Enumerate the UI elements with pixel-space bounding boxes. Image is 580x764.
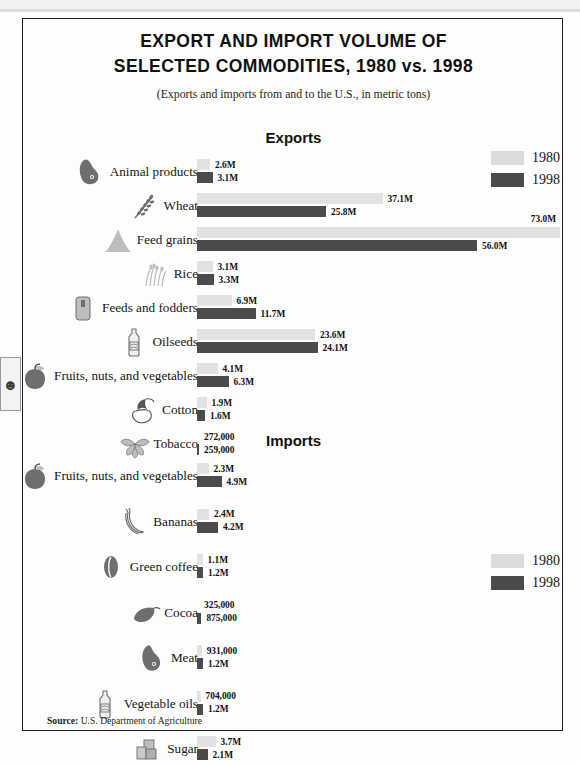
chart-frame: EXPORT AND IMPORT VOLUME OF SELECTED COM… [22, 18, 563, 731]
row-bars: 325,000875,000 [197, 596, 564, 630]
bar-1998 [197, 567, 203, 578]
bar-group-1998: 24.1M [197, 342, 348, 353]
row-label-sugar: Sugar [167, 741, 198, 757]
bar-1980 [197, 509, 209, 520]
row-bars: 4.1M6.3M [197, 359, 564, 393]
oilseeds-icon [117, 327, 151, 357]
bar-value-label: 931,000 [207, 646, 237, 656]
bar-group-1980: 6.9M [197, 295, 257, 306]
bar-value-label: 1.1M [208, 555, 229, 565]
chart-row: Sugar 3.7M2.1M [23, 732, 564, 764]
row-bars: 1.9M1.6M [197, 393, 564, 427]
bananas-icon [117, 507, 151, 537]
wheat-icon [128, 191, 162, 221]
bar-1980 [197, 691, 201, 702]
row-bars: 3.7M2.1M [197, 732, 564, 764]
bar-value-label: 1.2M [208, 704, 229, 714]
bar-value-label: 6.3M [234, 377, 255, 387]
bar-1980 [197, 295, 232, 306]
bar-1980 [197, 193, 383, 204]
row-bars: 73.0M56.0M [197, 223, 564, 257]
bar-1998 [197, 274, 214, 285]
row-bars: 23.6M24.1M [197, 325, 564, 359]
bar-value-label: 3.7M [221, 737, 242, 747]
row-label-animal-products: Animal products [110, 164, 198, 180]
bar-group-1998: 3.3M [197, 274, 239, 285]
bar-value-label: 875,000 [206, 613, 236, 623]
bar-group-1998: 4.9M [197, 476, 247, 487]
bar-value-label: 1.2M [208, 659, 229, 669]
bar-1998 [197, 308, 256, 319]
bar-1998 [197, 342, 318, 353]
bar-1980 [197, 329, 315, 340]
bar-group-1980: 4.1M [197, 363, 243, 374]
bar-group-1980: 704,000 [197, 691, 236, 702]
row-bars: 931,0001.2M [197, 641, 564, 675]
bar-group-1998: 11.7M [197, 308, 285, 319]
row-label-meat: Meat [171, 650, 198, 666]
bar-1980 [197, 363, 218, 374]
bar-1980 [197, 736, 216, 747]
bar-group-1980: 2.6M [197, 159, 236, 170]
chart-row: Bananas 2.4M4.2M [23, 505, 564, 539]
bar-1980 [197, 554, 203, 565]
row-label-wheat: Wheat [164, 198, 198, 214]
chart-row: Oilseeds23.6M24.1M [23, 325, 564, 359]
bar-value-label: 37.1M [388, 194, 413, 204]
bar-group-1980: 73.0M [197, 227, 560, 238]
bar-value-label: 2.6M [215, 160, 236, 170]
page-subtitle: (Exports and imports from and to the U.S… [23, 87, 564, 102]
bar-value-label: 2.1M [213, 750, 234, 760]
animal-products-icon [74, 157, 108, 187]
section-heading-imports: Imports [23, 432, 564, 449]
bar-group-1998: 25.8M [197, 206, 356, 217]
bar-1998 [197, 704, 203, 715]
fruits-nuts-vegetables-icon [18, 361, 52, 391]
bar-value-label: 4.2M [223, 522, 244, 532]
bar-value-label: 24.1M [323, 343, 348, 353]
bar-group-1998: 1.2M [197, 567, 229, 578]
page-title-line1: EXPORT AND IMPORT VOLUME OF [23, 31, 564, 52]
bar-group-1980: 1.1M [197, 554, 228, 565]
row-bars: 2.6M3.1M [197, 155, 564, 189]
bar-1998 [197, 410, 205, 421]
row-bars: 37.1M25.8M [197, 189, 564, 223]
vegetable-oils-icon [88, 689, 122, 719]
bar-group-1980: 931,000 [197, 645, 237, 656]
bar-group-1998: 1.2M [197, 658, 229, 669]
meat-icon [135, 643, 169, 673]
bar-group-1998: 4.2M [197, 522, 244, 533]
scan-edge-top [0, 0, 580, 9]
bar-1980 [197, 463, 209, 474]
row-label-feeds-and-fodders: Feeds and fodders [102, 300, 198, 316]
bar-1998 [197, 240, 477, 251]
bar-value-label: 23.6M [320, 330, 345, 340]
feeds-and-fodders-icon [66, 293, 100, 323]
row-bars: 6.9M11.7M [197, 291, 564, 325]
bar-group-1998: 1.6M [197, 410, 231, 421]
bar-value-label: 325,000 [204, 600, 234, 610]
bar-1998 [197, 172, 213, 183]
bar-1980 [197, 600, 199, 611]
bar-group-1980: 2.4M [197, 509, 235, 520]
bar-group-1998: 2.1M [197, 749, 233, 760]
chart-row: Green coffee1.1M1.2M [23, 550, 564, 584]
bar-value-label: 1.2M [208, 568, 229, 578]
bar-value-label: 3.3M [219, 275, 240, 285]
bar-1998 [197, 522, 218, 533]
bar-group-1980: 325,000 [197, 600, 234, 611]
bar-1980 [197, 159, 210, 170]
bar-value-label: 704,000 [206, 691, 236, 701]
row-label-vegetable-oils: Vegetable oils [124, 696, 198, 712]
row-label-cotton: Cotton [162, 402, 198, 418]
row-label-bananas: Bananas [153, 514, 198, 530]
bar-group-1980: 2.3M [197, 463, 234, 474]
bar-1980 [197, 227, 560, 238]
row-label-oilseeds: Oilseeds [153, 334, 198, 350]
bar-value-label: 73.0M [531, 214, 556, 224]
row-bars: 2.3M4.9M [197, 459, 564, 493]
row-label-green-coffee: Green coffee [130, 559, 198, 575]
sugar-icon [131, 734, 165, 764]
bar-group-1998: 56.0M [197, 240, 507, 251]
source-note: Source: U.S. Department of Agriculture [47, 715, 202, 726]
